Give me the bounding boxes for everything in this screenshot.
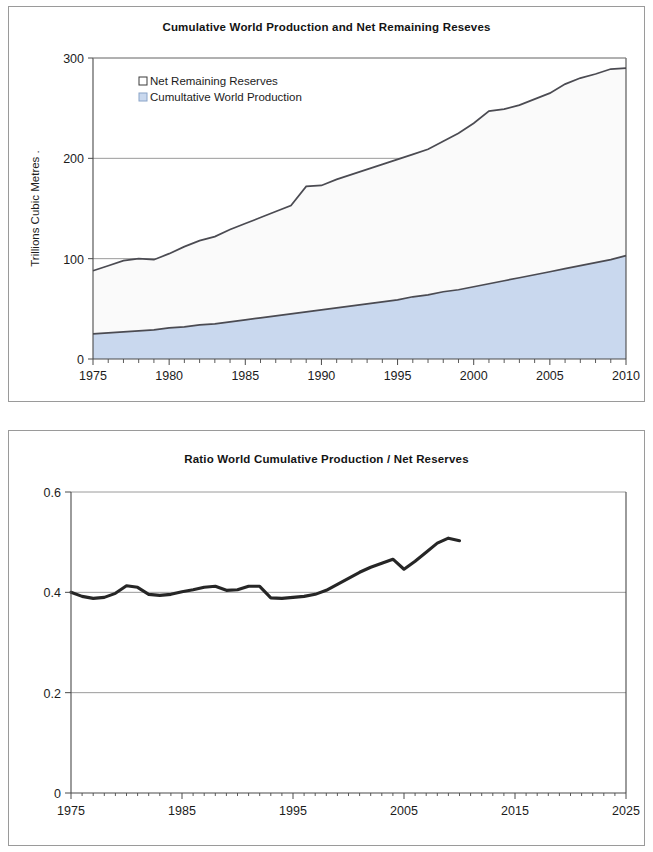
y-tick-label-0p6: 0.6	[44, 486, 61, 500]
legend-swatch-1	[139, 93, 147, 101]
y-tick-label-0p4: 0.4	[44, 586, 61, 600]
y-axis-title: Trillions Cubic Metres .	[29, 150, 41, 267]
y-tick-label-200: 200	[63, 152, 84, 166]
x-tick-label-1980: 1980	[155, 369, 183, 383]
y-tick-label-0: 0	[77, 353, 84, 367]
legend-swatch-0	[139, 77, 147, 85]
x-tick-label-2015: 2015	[501, 804, 529, 818]
x-tick-label-2005: 2005	[390, 804, 418, 818]
legend-label-1: Cumultative World Production	[150, 91, 302, 103]
cumulative-production-area-chart: 0100200300197519801985199019952000200520…	[9, 7, 646, 403]
x-tick-label-2005: 2005	[536, 369, 564, 383]
ratio-production-reserves-line-chart: 00.20.40.6197519851995200520152025	[9, 431, 646, 847]
x-tick-label-1975: 1975	[79, 369, 107, 383]
x-tick-label-1975: 1975	[57, 804, 85, 818]
y-tick-label-100: 100	[63, 253, 84, 267]
chart-panel-bottom: Ratio World Cumulative Production / Net …	[8, 430, 645, 846]
y-tick-label-0p2: 0.2	[44, 687, 61, 701]
x-tick-label-1985: 1985	[168, 804, 196, 818]
x-tick-label-2010: 2010	[612, 369, 640, 383]
legend-label-0: Net Remaining Reserves	[150, 75, 278, 87]
ratio-series-line	[71, 538, 460, 598]
x-tick-label-2025: 2025	[612, 804, 640, 818]
chart-panel-top: Cumulative World Production and Net Rema…	[8, 6, 645, 402]
x-tick-label-1995: 1995	[384, 369, 412, 383]
x-tick-label-1995: 1995	[279, 804, 307, 818]
y-tick-label-300: 300	[63, 52, 84, 66]
x-tick-label-2000: 2000	[460, 369, 488, 383]
x-tick-label-1990: 1990	[308, 369, 336, 383]
x-tick-label-1985: 1985	[231, 369, 259, 383]
y-tick-label-0: 0	[54, 787, 61, 801]
